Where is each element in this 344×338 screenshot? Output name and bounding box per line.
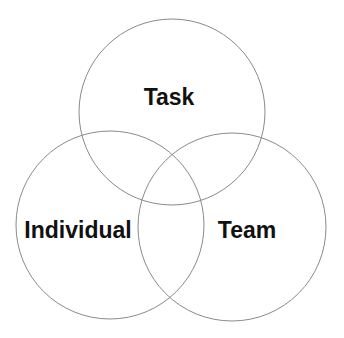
- circle-task: [79, 19, 265, 205]
- label-individual: Individual: [24, 217, 131, 243]
- label-team: Team: [218, 217, 276, 243]
- venn-diagram: Task Individual Team: [0, 0, 344, 338]
- label-task: Task: [144, 84, 195, 110]
